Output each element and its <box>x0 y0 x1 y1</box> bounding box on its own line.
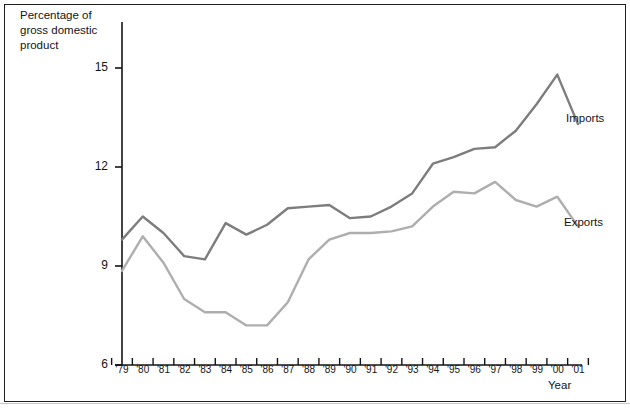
x-tick-label: '01 <box>566 364 590 375</box>
series-label-exports: Exports <box>564 216 603 228</box>
series-label-imports: Imports <box>566 112 604 124</box>
series-line-imports <box>122 75 578 260</box>
y-tick-label: 12 <box>78 159 108 173</box>
chart-figure: Percentage of gross domestic product Yea… <box>0 0 630 414</box>
y-tick-label: 6 <box>78 357 108 371</box>
x-axis-title: Year <box>548 379 571 391</box>
y-tick-label: 9 <box>78 258 108 272</box>
y-tick-label: 15 <box>78 60 108 74</box>
series-line-exports <box>122 182 578 326</box>
